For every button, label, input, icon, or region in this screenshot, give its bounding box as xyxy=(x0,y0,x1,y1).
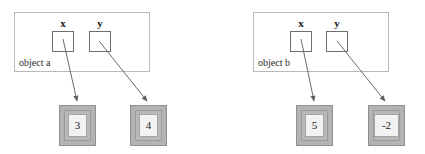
variable-box-b-x[interactable] xyxy=(290,31,312,52)
value-box-a-x[interactable]: 3 xyxy=(59,105,96,146)
object-diagram-b: object b x y 5 -2 xyxy=(212,0,425,154)
value-box-b-y[interactable]: -2 xyxy=(368,105,405,146)
variable-box-b-y[interactable] xyxy=(326,31,348,52)
value-inner-frame: -2 xyxy=(373,110,400,141)
value-text-a-y: 4 xyxy=(139,114,158,137)
variable-label-a-y: y xyxy=(89,17,111,29)
object-diagram-a: object a x y 3 4 xyxy=(0,0,213,154)
value-inner-frame: 4 xyxy=(135,110,162,141)
value-text-b-x: 5 xyxy=(305,114,324,137)
value-box-a-y[interactable]: 4 xyxy=(130,105,167,146)
diagram-canvas: object a x y 3 4 object b x y 5 xyxy=(0,0,425,154)
value-text-a-x: 3 xyxy=(68,114,87,137)
variable-box-a-x[interactable] xyxy=(52,31,74,52)
object-label-a: object a xyxy=(19,57,50,68)
value-inner-frame: 3 xyxy=(64,110,91,141)
value-box-b-x[interactable]: 5 xyxy=(296,105,333,146)
value-inner-frame: 5 xyxy=(301,110,328,141)
variable-label-b-x: x xyxy=(290,17,312,29)
variable-box-a-y[interactable] xyxy=(89,31,111,52)
object-label-b: object b xyxy=(258,57,290,68)
value-text-b-y: -2 xyxy=(374,114,399,137)
variable-label-a-x: x xyxy=(52,17,74,29)
variable-label-b-y: y xyxy=(326,17,348,29)
